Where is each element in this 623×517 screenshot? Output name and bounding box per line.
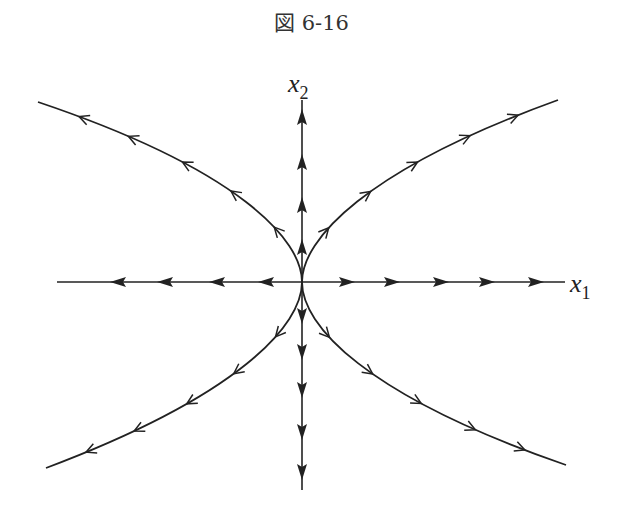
x1-axis-label: x1 [569,269,591,303]
axis-arrows [110,109,544,480]
trajectory-upper-left [38,102,302,282]
phase-portrait-diagram: x1 x2 [0,0,623,517]
trajectory-lower-right [302,282,566,465]
trajectory-lower-left [46,282,302,468]
x2-axis-label: x2 [287,69,309,103]
trajectory-upper-right [302,100,558,282]
